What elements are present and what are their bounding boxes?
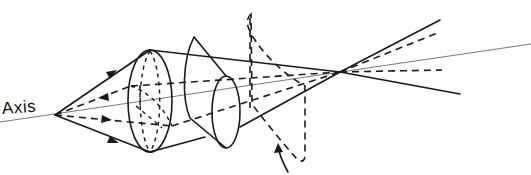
input-rays <box>55 50 172 152</box>
ray-upper-marginal-in <box>55 50 150 115</box>
arrowhead-icon <box>98 93 109 101</box>
optical-diagram <box>0 0 531 175</box>
optical-axis-line <box>0 44 531 122</box>
ray-lower-sagittal-in <box>55 115 172 126</box>
arrowhead-icon <box>274 143 283 153</box>
axis-label: Axis <box>1 97 36 119</box>
ray-upper-sagittal-in <box>55 86 131 115</box>
image-plane-ring <box>247 14 305 161</box>
arrowhead-icon <box>101 115 112 123</box>
lens-1 <box>128 50 172 152</box>
lens-2 <box>184 37 240 148</box>
